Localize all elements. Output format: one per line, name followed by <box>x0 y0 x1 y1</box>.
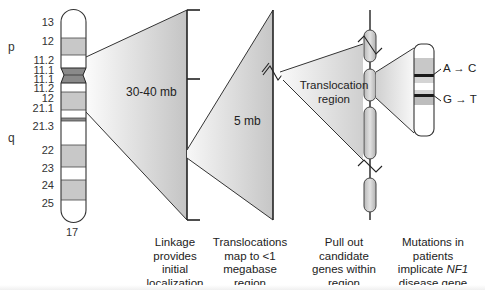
caption-mutations: Mutations in patients implicate NF1 dise… <box>383 236 483 290</box>
arm-label-q: q <box>8 131 15 145</box>
mutation-a-to-c: A → C <box>443 62 476 74</box>
chromosome-number: 17 <box>66 226 78 238</box>
band-label: 23 <box>24 163 54 174</box>
band-label: 21.1 <box>24 103 54 114</box>
band-label: 24 <box>24 180 54 191</box>
caption-line: Translocations <box>200 236 300 250</box>
caption-line: implicate NF1 <box>383 263 483 277</box>
arm-label-p: p <box>8 40 15 54</box>
band-label: 21.3 <box>24 121 54 132</box>
region-label-line: Translocation <box>297 78 371 92</box>
band-label: 12 <box>24 36 54 47</box>
caption-candidate-genes: Pull out candidate genes within region <box>294 236 394 290</box>
chromosome-17 <box>61 10 86 223</box>
band-label: 13 <box>24 17 54 28</box>
linkage-bracket <box>187 10 200 220</box>
caption-word: implicate <box>398 263 443 275</box>
caption-line: map to <1 <box>200 250 300 264</box>
caption-line: megabase <box>200 263 300 277</box>
mutation-g-to-t: G → T <box>443 93 477 105</box>
caption-line: Pull out <box>294 236 394 250</box>
gene-detail <box>414 44 441 136</box>
translocation-region-label: Translocation region <box>297 78 371 106</box>
gene-name-nf1: NF1 <box>446 263 468 275</box>
translocation-size-label: 5 mb <box>234 114 261 128</box>
caption-line: patients <box>383 250 483 264</box>
cropped-figure-caption <box>0 285 485 290</box>
band-label: 25 <box>24 198 54 209</box>
gene-zoom-wedge <box>376 48 414 133</box>
region-label-line: region <box>297 92 371 106</box>
nf1-positional-cloning-diagram: p q 13 12 11.2 11.1 11.1 11.2 12 21.1 21… <box>0 0 485 290</box>
caption-line: Mutations in <box>383 236 483 250</box>
caption-line: candidate <box>294 250 394 264</box>
band-label: 22 <box>24 145 54 156</box>
caption-translocations: Translocations map to <1 megabase region <box>200 236 300 290</box>
caption-line: genes within <box>294 263 394 277</box>
linkage-wedge <box>86 10 187 220</box>
linkage-size-label: 30-40 mb <box>126 85 177 99</box>
